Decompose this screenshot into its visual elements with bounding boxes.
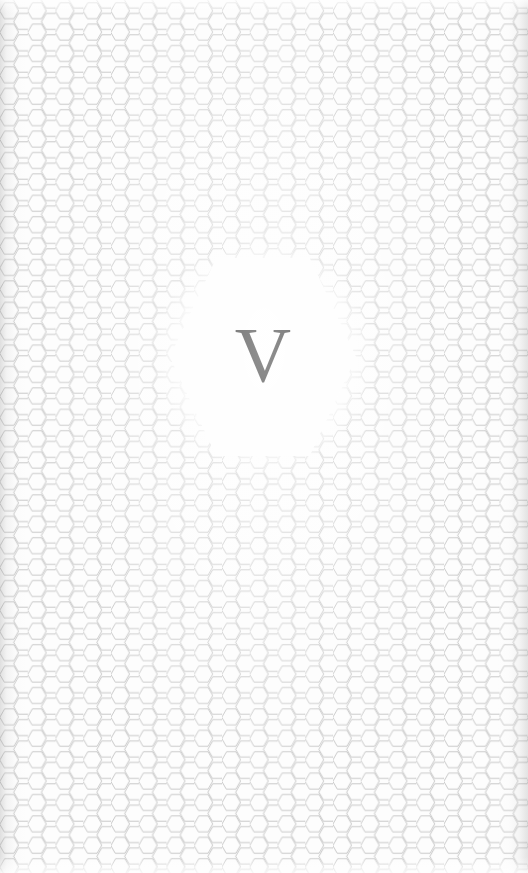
part-divider-page: V <box>0 0 528 873</box>
part-numeral: V <box>235 316 291 394</box>
